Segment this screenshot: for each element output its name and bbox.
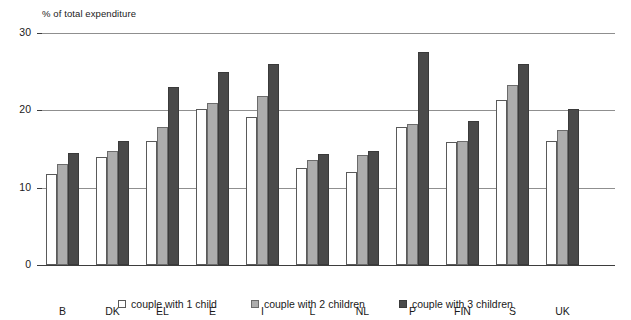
- bar: [496, 100, 507, 265]
- y-tick-mark-10: [37, 188, 42, 189]
- y-tick-mark-30: [37, 33, 42, 34]
- bar: [246, 117, 257, 265]
- legend-swatch-icon: [118, 300, 126, 308]
- y-axis-tick-label: 0: [1, 258, 31, 270]
- y-axis-title: % of total expenditure: [42, 8, 136, 19]
- bar: [118, 141, 129, 265]
- legend-swatch-icon: [251, 300, 259, 308]
- bar: [446, 142, 457, 265]
- bar: [468, 121, 479, 265]
- bar: [257, 96, 268, 265]
- y-tick-mark-0: [37, 265, 42, 266]
- bar: [268, 64, 279, 265]
- y-axis-tick-label: 30: [1, 26, 31, 38]
- chart-legend: couple with 1 childcouple with 2 childre…: [0, 298, 631, 310]
- bar: [407, 124, 418, 265]
- bar: [546, 141, 557, 266]
- bar: [207, 103, 218, 265]
- bar: [218, 72, 229, 265]
- bar: [46, 174, 57, 265]
- legend-item[interactable]: couple with 1 child: [118, 298, 217, 310]
- legend-item[interactable]: couple with 2 children: [251, 298, 365, 310]
- bar: [368, 151, 379, 265]
- gridline-20: [42, 110, 615, 111]
- bar: [68, 153, 79, 265]
- bar-chart: % of total expenditure 0102030BDKELEILNL…: [0, 0, 631, 320]
- bar: [457, 141, 468, 266]
- bar: [157, 127, 168, 265]
- bar: [518, 64, 529, 265]
- bar: [107, 151, 118, 265]
- bar: [168, 87, 179, 265]
- bar: [296, 168, 307, 265]
- bar: [346, 172, 357, 265]
- y-tick-mark-20: [37, 110, 42, 111]
- plot-area: 0102030BDKELEILNLPFINSUK: [42, 33, 615, 265]
- y-axis-tick-label: 10: [1, 181, 31, 193]
- bar: [307, 160, 318, 265]
- bar: [396, 127, 407, 265]
- legend-label: couple with 2 children: [264, 298, 365, 310]
- bar: [557, 130, 568, 265]
- bar: [96, 157, 107, 265]
- gridline-0: [42, 265, 615, 266]
- bar: [57, 164, 68, 265]
- y-axis-tick-label: 20: [1, 103, 31, 115]
- bar: [146, 141, 157, 265]
- bar: [507, 85, 518, 265]
- bar: [318, 154, 329, 265]
- bar: [568, 109, 579, 265]
- legend-swatch-icon: [399, 300, 407, 308]
- legend-label: couple with 3 children: [412, 298, 513, 310]
- bar: [418, 52, 429, 265]
- legend-item[interactable]: couple with 3 children: [399, 298, 513, 310]
- bar: [357, 155, 368, 265]
- legend-label: couple with 1 child: [131, 298, 217, 310]
- bar: [196, 109, 207, 265]
- gridline-30: [42, 33, 615, 34]
